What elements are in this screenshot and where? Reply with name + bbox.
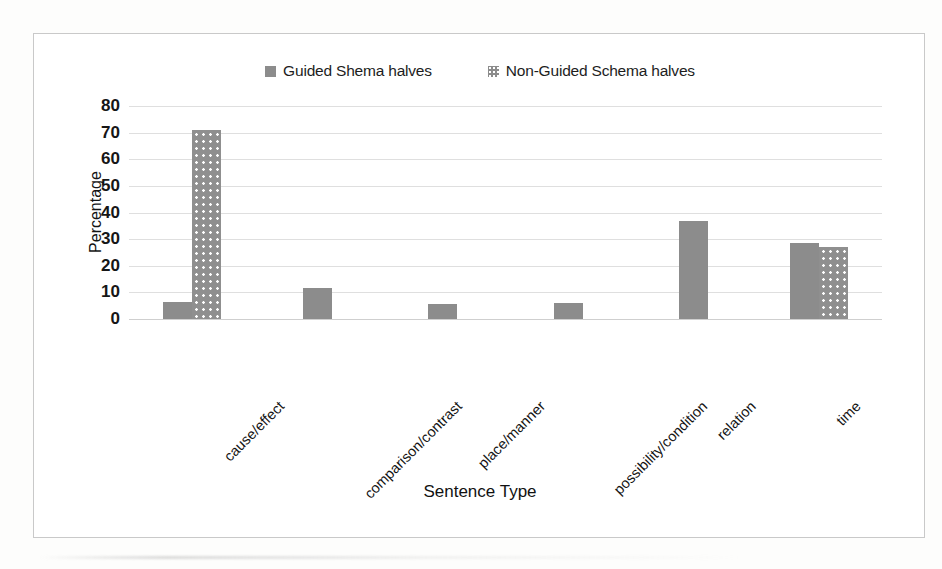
gridline — [129, 319, 882, 320]
legend-swatch-solid-icon — [265, 66, 276, 77]
bar-guided — [554, 303, 583, 319]
chart-legend: Guided Shema halves Non-Guided Schema ha… — [34, 62, 926, 80]
bar-group — [255, 106, 381, 319]
bar-group — [380, 106, 506, 319]
bar-group — [506, 106, 632, 319]
y-axis-tick-label: 70 — [101, 123, 120, 143]
bar-non-guided — [192, 130, 221, 319]
bar-group — [757, 106, 883, 319]
legend-label-guided: Guided Shema halves — [283, 62, 432, 80]
y-axis-tick-label: 30 — [101, 229, 120, 249]
bar-guided — [163, 302, 192, 319]
x-axis-tick-label: time — [833, 398, 864, 429]
legend-swatch-dotted-icon — [488, 66, 499, 77]
legend-entry-non-guided: Non-Guided Schema halves — [488, 62, 695, 80]
bar-guided — [790, 243, 819, 319]
y-axis-tick-label: 50 — [101, 176, 120, 196]
y-axis-tick-label: 20 — [101, 256, 120, 276]
x-axis-tick-label: cause/effect — [221, 398, 287, 464]
bar-guided — [679, 221, 708, 320]
y-axis-tick-label: 40 — [101, 203, 120, 223]
x-axis-tick-label: relation — [714, 398, 759, 443]
y-axis-tick-label: 60 — [101, 149, 120, 169]
x-axis-title: Sentence Type — [34, 482, 926, 502]
bar-group — [129, 106, 255, 319]
bar-guided — [303, 288, 332, 319]
plot-area: 01020304050607080 cause/effectcomparison… — [129, 106, 882, 319]
y-axis-tick-label: 0 — [111, 309, 120, 329]
bar-non-guided — [819, 247, 848, 319]
scan-artifact — [40, 556, 740, 559]
legend-label-non-guided: Non-Guided Schema halves — [506, 62, 695, 80]
chart-frame: Guided Shema halves Non-Guided Schema ha… — [33, 33, 925, 538]
x-axis-tick-label: place/manner — [474, 398, 547, 471]
bar-guided — [428, 304, 457, 319]
bar-group — [631, 106, 757, 319]
scanned-page-background: Guided Shema halves Non-Guided Schema ha… — [0, 0, 942, 569]
y-axis-tick-label: 10 — [101, 282, 120, 302]
y-axis-tick-label: 80 — [101, 96, 120, 116]
legend-entry-guided: Guided Shema halves — [265, 62, 432, 80]
